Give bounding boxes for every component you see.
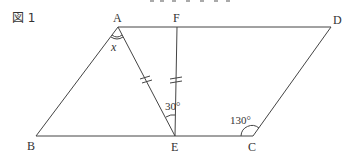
geometry-diagram: x 30° 130° A F D B E C: [0, 0, 352, 160]
point-a-label: A: [113, 11, 122, 25]
cropped-heading-fragment: [150, 0, 230, 2]
point-b-label: B: [27, 139, 35, 153]
point-d-label: D: [333, 13, 342, 27]
angle-arc-x-inner: [112, 35, 122, 37]
parallelogram-abcd: [36, 27, 331, 136]
point-f-label: F: [173, 11, 180, 25]
point-e-label: E: [171, 140, 178, 154]
angle-arc-30: [166, 115, 175, 117]
angle-x-label: x: [110, 40, 117, 54]
point-c-label: C: [248, 140, 256, 154]
angle-30-label: 30°: [165, 100, 180, 112]
angle-130-label: 130°: [230, 114, 251, 126]
